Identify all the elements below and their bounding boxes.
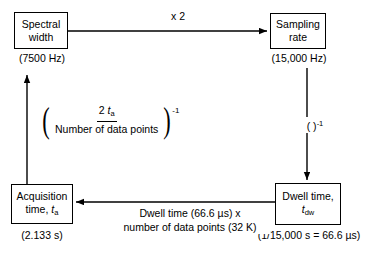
node-dwell-time[interactable]: Dwell time, tdw — [275, 183, 341, 225]
node-dwell-time-line1: Dwell time, — [282, 190, 333, 203]
fraction-numerator: 2 ta — [97, 104, 117, 122]
acq-time-sub: a — [54, 208, 58, 217]
node-sampling-rate[interactable]: Sampling rate — [270, 13, 326, 49]
inverse-base: ( ) — [307, 120, 317, 132]
caption-spectral-width: (7500 Hz) — [8, 52, 76, 64]
node-spectral-width-line2: width — [29, 31, 54, 44]
edge-label-dwell-product: Dwell time (66.6 µs) x number of data po… — [110, 206, 270, 234]
dwell-time-sub: dw — [305, 208, 315, 217]
inverse-exponent: -1 — [317, 119, 324, 128]
left-paren-glyph: ( — [42, 105, 49, 135]
node-dwell-time-line2: tdw — [302, 203, 315, 219]
fraction-exponent: -1 — [172, 106, 179, 115]
fraction-denominator: Number of data points — [53, 122, 160, 135]
diagram-canvas: Spectral width (7500 Hz) Sampling rate (… — [0, 0, 378, 260]
right-paren-glyph: ) — [164, 105, 171, 135]
node-acquisition-time[interactable]: Acquisition time, ta — [11, 184, 73, 224]
caption-acquisition-time: (2.133 s) — [8, 229, 76, 241]
node-spectral-width-line1: Spectral — [22, 18, 61, 31]
acq-time-prefix: time, — [26, 203, 52, 215]
edge-label-inverse: ( )-1 — [300, 117, 330, 133]
node-sampling-rate-line1: Sampling — [276, 18, 320, 31]
dwell-product-line1: Dwell time (66.6 µs) x — [110, 206, 270, 220]
dwell-product-line2: number of data points (32 K) — [110, 220, 270, 234]
node-spectral-width[interactable]: Spectral width — [14, 12, 68, 49]
edge-label-multiply: x 2 — [158, 10, 198, 23]
node-sampling-rate-line2: rate — [289, 31, 307, 44]
caption-sampling-rate: (15,000 Hz) — [258, 52, 340, 64]
edge-label-fraction: ( 2 ta Number of data points ) -1 — [40, 104, 179, 135]
node-acquisition-time-line2: time, ta — [26, 203, 59, 219]
fraction: 2 ta Number of data points — [52, 104, 161, 135]
numerator-sub: a — [110, 109, 114, 118]
node-acquisition-time-line1: Acquisition — [17, 190, 68, 203]
